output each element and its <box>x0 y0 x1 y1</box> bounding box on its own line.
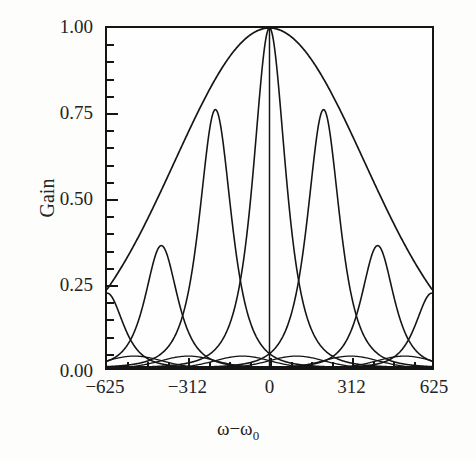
y-axis-minor-tick <box>107 182 114 184</box>
x-axis-tick-label: 0 <box>265 376 275 398</box>
y-axis-title-wrapper: Gain <box>18 26 48 370</box>
x-axis-minor-tick <box>332 362 334 368</box>
plot-area <box>105 26 434 370</box>
y-axis-minor-tick <box>107 233 114 235</box>
x-axis-major-tick <box>352 358 354 368</box>
x-axis-major-tick <box>188 358 190 368</box>
x-axis-minor-tick <box>250 362 252 368</box>
x-axis-title-omega-zero: ω <box>240 418 253 439</box>
y-axis-minor-tick <box>107 44 114 46</box>
figure-container: 0.000.250.500.751.00 Gain −625−312031262… <box>0 0 476 461</box>
x-axis-minor-tick <box>168 362 170 368</box>
x-axis-tick-label: 625 <box>420 376 449 398</box>
y-axis-minor-tick <box>107 354 114 356</box>
x-axis-title-omega: ω <box>217 418 230 439</box>
x-axis-major-tick <box>270 358 272 368</box>
y-axis-tick-label: 0.25 <box>60 275 93 294</box>
x-axis-minor-tick <box>209 362 211 368</box>
y-axis-tick-label: 1.00 <box>60 17 93 36</box>
x-axis-tick-labels: −625−3120312625 <box>105 376 434 404</box>
x-axis-minor-tick <box>127 362 129 368</box>
y-axis-minor-tick <box>107 337 114 339</box>
y-axis-minor-tick <box>107 216 114 218</box>
y-axis-minor-tick <box>107 319 114 321</box>
x-axis-minor-tick <box>229 362 231 368</box>
x-axis-minor-tick <box>291 362 293 368</box>
x-axis-title-minus: − <box>229 418 240 439</box>
y-axis-minor-tick <box>107 268 114 270</box>
y-axis-minor-tick <box>107 165 114 167</box>
x-axis-minor-tick <box>147 362 149 368</box>
x-axis-minor-tick <box>393 362 395 368</box>
gain-curves <box>107 28 432 368</box>
y-axis-minor-tick <box>107 147 114 149</box>
x-axis-title-subscript: 0 <box>253 428 260 443</box>
x-axis-minor-tick <box>414 362 416 368</box>
y-axis-minor-tick <box>107 302 114 304</box>
y-axis-minor-tick <box>107 251 114 253</box>
y-axis-minor-tick <box>107 79 114 81</box>
x-axis-tick-label: −625 <box>85 376 124 398</box>
y-axis-major-tick <box>107 285 118 287</box>
x-axis-tick-label: −312 <box>168 376 207 398</box>
y-axis-minor-tick <box>107 130 114 132</box>
x-axis-title: ω−ω0 <box>0 418 476 444</box>
y-axis-minor-tick <box>107 96 114 98</box>
y-axis-title: Gain <box>32 26 62 370</box>
x-axis-minor-tick <box>373 362 375 368</box>
y-axis-tick-label: 0.50 <box>60 189 93 208</box>
y-axis-tick-label: 0.75 <box>60 103 93 122</box>
y-axis-major-tick <box>107 199 118 201</box>
x-axis-minor-tick <box>311 362 313 368</box>
x-axis-tick-label: 312 <box>337 376 366 398</box>
y-axis-major-tick <box>107 113 118 115</box>
y-axis-minor-tick <box>107 61 114 63</box>
